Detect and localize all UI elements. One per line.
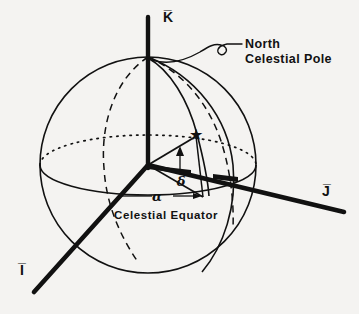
alpha-symbol: α [152, 189, 162, 204]
celestial-equator-label: Celestial Equator [114, 209, 218, 221]
north-celestial-pole-label-line2: Celestial Pole [245, 52, 332, 66]
k-axis-label: K̅ [163, 9, 173, 25]
diagram-canvas: α δ ★ K̅ J̅ I̅ North Celestial Pole Cele… [0, 0, 359, 314]
delta-symbol: δ [176, 174, 186, 189]
north-celestial-pole-label-line1: North [245, 37, 280, 51]
j-axis-label: J̅ [322, 183, 331, 199]
star-marker: ★ [189, 126, 203, 143]
celestial-sphere-figure: α δ ★ K̅ J̅ I̅ North Celestial Pole Cele… [0, 0, 359, 314]
